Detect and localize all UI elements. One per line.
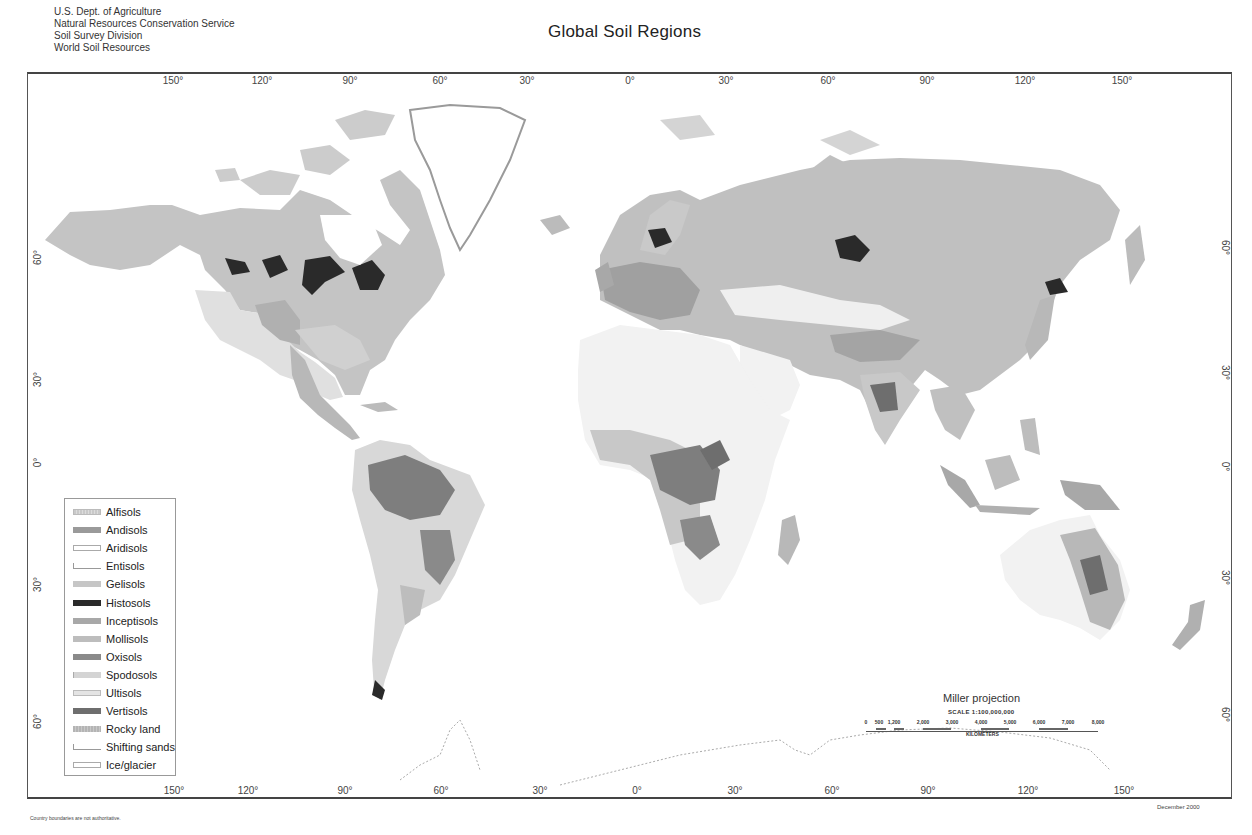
scale-tick: 1,200 xyxy=(888,719,901,725)
legend-label: Ice/glacier xyxy=(106,759,156,771)
legend-item-ultisols: Ultisols xyxy=(73,684,175,702)
lon-label-top: 0° xyxy=(625,75,635,86)
legend-label: Alfisols xyxy=(106,506,141,518)
lat-label-right: 0° xyxy=(1220,462,1231,472)
swatch-inceptisols-icon xyxy=(73,618,101,624)
lon-label-bottom: 120° xyxy=(1018,785,1039,796)
lon-label-bottom: 60° xyxy=(824,785,839,796)
maritime-se-asia xyxy=(940,418,1120,515)
lon-label-bottom: 90° xyxy=(337,785,352,796)
lon-label-top: 30° xyxy=(718,75,733,86)
legend-label: Aridisols xyxy=(106,542,148,554)
lon-label-bottom: 60° xyxy=(433,785,448,796)
scale-tick: 6,000 xyxy=(1033,719,1046,725)
swatch-mollisols-icon xyxy=(73,636,101,642)
lon-label-top: 120° xyxy=(1015,75,1036,86)
lon-label-top: 150° xyxy=(163,75,184,86)
scale-tick: 2,000 xyxy=(917,719,930,725)
australia xyxy=(1000,515,1205,650)
lat-label-right: 60° xyxy=(1220,707,1231,722)
scale-unit: KILOMETERS xyxy=(966,731,999,737)
scale-tick: 5,000 xyxy=(1004,719,1017,725)
legend-label: Shifting sands xyxy=(106,741,175,753)
swatch-histosols-icon xyxy=(73,600,101,606)
lat-label-left: 60° xyxy=(32,250,43,265)
lon-label-bottom: 150° xyxy=(1114,785,1135,796)
lat-label-right: 30° xyxy=(1220,570,1231,585)
legend-item-spodosols: Spodosols xyxy=(73,666,175,684)
south-america xyxy=(352,440,485,700)
swatch-alfisols-icon xyxy=(73,509,101,515)
lon-label-top: 120° xyxy=(252,75,273,86)
legend-item-aridisols: Aridisols xyxy=(73,539,175,557)
lon-label-bottom: 150° xyxy=(164,785,185,796)
scale-tick-labels: 0 500 1,200 2,000 3,000 4,000 5,000 6,00… xyxy=(864,719,1104,727)
legend-item-andisols: Andisols xyxy=(73,521,175,539)
legend-item-ice-glacier: Ice/glacier xyxy=(73,756,175,774)
legend-item-entisols: Entisols xyxy=(73,557,175,575)
lat-label-right: 30° xyxy=(1220,365,1231,380)
lon-label-bottom: 30° xyxy=(727,785,742,796)
legend-label: Oxisols xyxy=(106,651,142,663)
legend-item-shifting-sands: Shifting sands xyxy=(73,738,175,756)
swatch-ice-glacier-icon xyxy=(73,762,101,768)
legend-label: Mollisols xyxy=(106,633,148,645)
legend-label: Andisols xyxy=(106,524,148,536)
lat-label-right: 60° xyxy=(1220,240,1231,255)
lon-label-bottom: 120° xyxy=(238,785,259,796)
lon-label-top: 60° xyxy=(432,75,447,86)
scale-tick: 7,000 xyxy=(1062,719,1075,725)
scale-tick: 8,000 xyxy=(1092,719,1105,725)
legend-item-mollisols: Mollisols xyxy=(73,630,175,648)
legend-label: Vertisols xyxy=(106,705,148,717)
swatch-spodosols-icon xyxy=(73,672,101,678)
legend-label: Rocky land xyxy=(106,723,160,735)
legend-label: Inceptisols xyxy=(106,615,158,627)
legend-label: Gelisols xyxy=(106,578,145,590)
lon-label-top: 90° xyxy=(919,75,934,86)
swatch-ultisols-icon xyxy=(73,690,101,696)
lat-label-left: 0° xyxy=(32,458,43,468)
swatch-rocky-land-icon xyxy=(73,726,101,732)
scale-tick: 4,000 xyxy=(975,719,988,725)
lon-label-top: 30° xyxy=(519,75,534,86)
swatch-shifting-sands-icon xyxy=(73,744,101,750)
lon-label-bottom: 0° xyxy=(632,785,642,796)
soil-legend: Alfisols Andisols Aridisols Entisols Gel… xyxy=(64,498,176,776)
swatch-vertisols-icon xyxy=(73,708,101,714)
legend-item-alfisols: Alfisols xyxy=(73,503,175,521)
legend-item-gelisols: Gelisols xyxy=(73,575,175,593)
legend-item-rocky-land: Rocky land xyxy=(73,720,175,738)
lat-label-left: 30° xyxy=(32,372,43,387)
lat-label-left: 60° xyxy=(32,714,43,729)
legend-label: Ultisols xyxy=(106,687,141,699)
boundary-disclaimer: Country boundaries are not authoritative… xyxy=(30,815,121,821)
swatch-gelisols-icon xyxy=(73,581,101,587)
map-date: December 2000 xyxy=(1157,804,1200,810)
legend-item-inceptisols: Inceptisols xyxy=(73,612,175,630)
legend-label: Entisols xyxy=(106,560,145,572)
world-map xyxy=(0,0,1252,835)
scale-ratio: SCALE 1:100,000,000 xyxy=(948,709,1014,715)
scale-tick: 3,000 xyxy=(946,719,959,725)
lat-label-left: 30° xyxy=(32,577,43,592)
legend-item-oxisols: Oxisols xyxy=(73,648,175,666)
swatch-oxisols-icon xyxy=(73,654,101,660)
lon-label-top: 150° xyxy=(1112,75,1133,86)
swatch-andisols-icon xyxy=(73,527,101,533)
legend-item-histosols: Histosols xyxy=(73,593,175,611)
lon-label-top: 90° xyxy=(342,75,357,86)
lon-label-bottom: 90° xyxy=(920,785,935,796)
legend-label: Histosols xyxy=(106,597,151,609)
legend-label: Spodosols xyxy=(106,669,157,681)
legend-item-vertisols: Vertisols xyxy=(73,702,175,720)
north-america xyxy=(45,105,570,440)
swatch-aridisols-icon xyxy=(73,545,101,551)
lon-label-bottom: 30° xyxy=(532,785,547,796)
lon-label-top: 60° xyxy=(820,75,835,86)
swatch-entisols-icon xyxy=(73,563,101,569)
scale-tick: 0 xyxy=(865,719,868,725)
projection-label: Miller projection xyxy=(943,692,1020,704)
scale-tick: 500 xyxy=(875,719,883,725)
